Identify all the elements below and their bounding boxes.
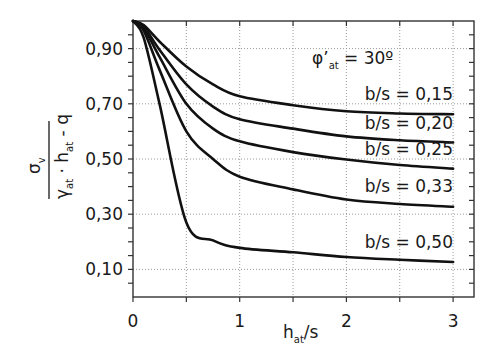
y-tick-label: 0,50 bbox=[85, 149, 123, 169]
series-label: b/s = 0,25 bbox=[365, 139, 453, 159]
svg-text:σv: σv bbox=[24, 157, 47, 174]
series-label: b/s = 0,15 bbox=[365, 84, 453, 104]
svg-text:hat/s: hat/s bbox=[283, 322, 319, 345]
y-tick-label: 0,70 bbox=[85, 94, 123, 114]
grid-lines bbox=[133, 21, 474, 297]
friction-angle-annotation: φ’at = 30º bbox=[312, 48, 393, 71]
y-axis-label: σv γat · hat - q bbox=[24, 114, 75, 199]
series-label: b/s = 0,20 bbox=[365, 113, 453, 133]
y-tick-label: 0,90 bbox=[85, 39, 123, 59]
svg-text:γat · hat - q: γat · hat - q bbox=[52, 114, 75, 199]
x-tick-label: 3 bbox=[448, 311, 459, 331]
y-tick-label: 0,10 bbox=[85, 259, 123, 279]
x-tick-label: 1 bbox=[234, 311, 245, 331]
series-label: b/s = 0,50 bbox=[365, 232, 453, 252]
series-label: b/s = 0,33 bbox=[365, 176, 453, 196]
x-axis-label: hat/s bbox=[283, 322, 319, 345]
chart: 01230,100,300,500,700,90 b/s = 0,15b/s =… bbox=[0, 0, 499, 360]
x-tick-label: 0 bbox=[128, 311, 139, 331]
y-tick-label: 0,30 bbox=[85, 204, 123, 224]
x-tick-label: 2 bbox=[341, 311, 352, 331]
